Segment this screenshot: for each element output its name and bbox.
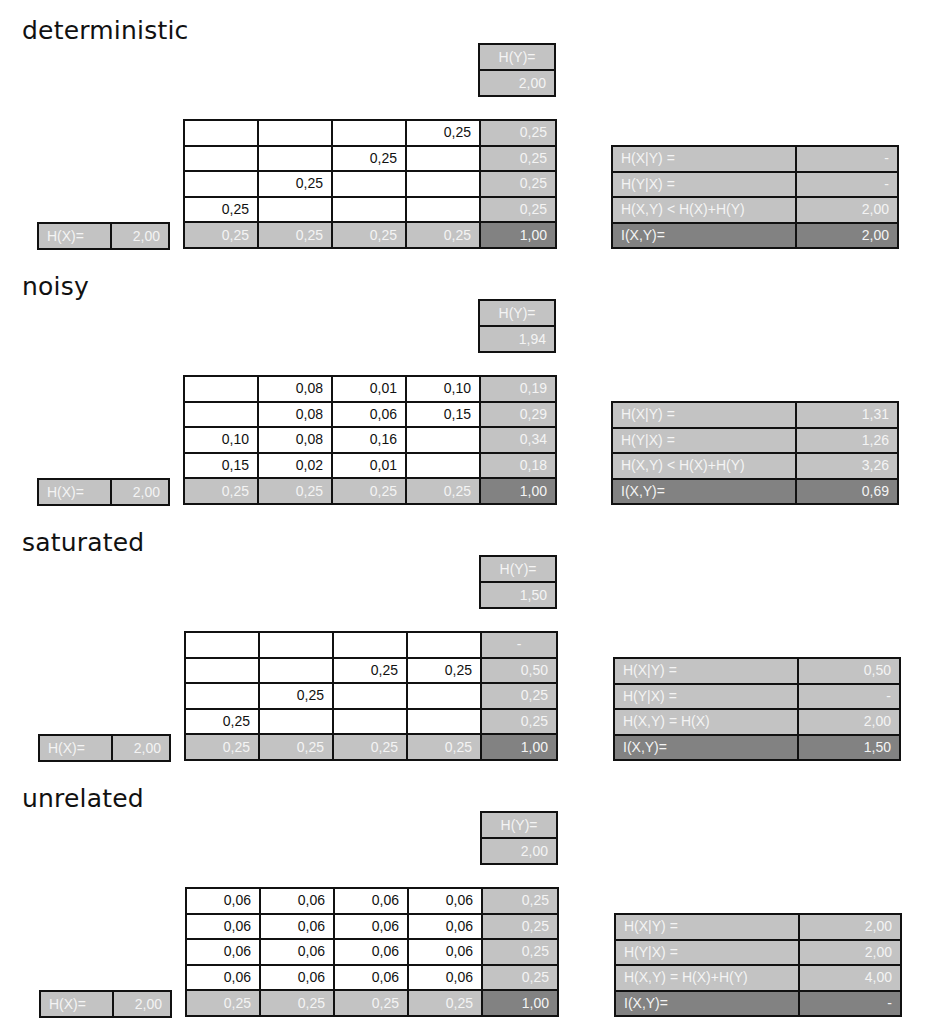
cell: 0,06 (260, 914, 334, 940)
hy-value: 2,00 (481, 838, 557, 864)
row-marginal: 0,25 (480, 120, 556, 146)
column-marginal: 0,25 (184, 478, 258, 504)
conditional-entropy-yx-label: H(Y|X) = (614, 684, 798, 710)
table-row: 0,25 0,25 (185, 709, 557, 735)
table-row: 0,25 0,25 0,50 (185, 658, 557, 684)
table-row: 0,25 0,25 (184, 197, 556, 223)
mutual-information-value: - (799, 991, 901, 1017)
cell: 0,25 (258, 171, 332, 197)
joint-entropy-value: 2,00 (796, 197, 898, 223)
section-saturated: saturated H(Y)= 1,50 - 0,25 0,25 0,50 0,… (0, 520, 929, 776)
row-marginal: 0,25 (481, 683, 557, 709)
row-marginal: 0,25 (481, 709, 557, 735)
cell: 0,06 (408, 939, 482, 965)
table-row: 0,25 0,25 (184, 146, 556, 172)
cell (258, 120, 332, 146)
cell: 0,06 (260, 888, 334, 914)
hy-label: H(Y)= (479, 44, 555, 70)
cell: 0,08 (258, 402, 332, 428)
section-title: unrelated (22, 784, 144, 813)
row-marginal: 0,25 (482, 914, 558, 940)
hy-box: H(Y)= 2,00 (478, 43, 556, 97)
conditional-entropy-xy-value: 1,31 (796, 402, 898, 428)
cell: 0,16 (332, 427, 406, 453)
cell (333, 709, 407, 735)
hy-value: 2,00 (479, 70, 555, 96)
cell: 0,10 (184, 427, 258, 453)
cell (258, 197, 332, 223)
hy-box: H(Y)= 2,00 (480, 811, 558, 865)
cell (406, 427, 480, 453)
cell: 0,02 (258, 453, 332, 479)
joint-entropy-label: H(X,Y) = H(X)+H(Y) (615, 965, 799, 991)
cell: 0,08 (258, 427, 332, 453)
column-marginal: 0,25 (260, 990, 334, 1016)
hx-box: H(X)= 2,00 (39, 990, 172, 1018)
cell: 0,25 (184, 197, 258, 223)
joint-entropy-label: H(X,Y) = H(X) (614, 709, 798, 735)
section-title: noisy (22, 272, 89, 301)
column-marginal: 0,25 (408, 990, 482, 1016)
row-marginal: 0,25 (480, 197, 556, 223)
entropy-summary-table: H(X|Y) =0,50 H(Y|X) =- H(X,Y) = H(X)2,00… (613, 657, 901, 761)
column-marginal: 0,25 (406, 222, 480, 248)
cell (258, 146, 332, 172)
cell: 0,08 (258, 376, 332, 402)
hy-label: H(Y)= (481, 812, 557, 838)
row-marginal: 0,19 (480, 376, 556, 402)
total: 1,00 (480, 222, 556, 248)
cell: 0,15 (184, 453, 258, 479)
joint-entropy-label: H(X,Y) < H(X)+H(Y) (612, 453, 796, 479)
hy-value: 1,94 (479, 326, 555, 352)
row-marginal: 0,25 (482, 965, 558, 991)
table-row: 0,25 0,25 (184, 171, 556, 197)
column-marginal: 0,25 (258, 478, 332, 504)
table-row: 0,15 0,02 0,01 0,18 (184, 453, 556, 479)
cell: 0,06 (260, 939, 334, 965)
row-marginal: 0,25 (480, 146, 556, 172)
entropy-summary-table: H(X|Y) =2,00 H(Y|X) =2,00 H(X,Y) = H(X)+… (614, 913, 902, 1017)
cell: 0,06 (186, 939, 260, 965)
hx-value: 2,00 (113, 991, 171, 1017)
conditional-entropy-xy-value: - (796, 146, 898, 172)
joint-entropy-value: 4,00 (799, 965, 901, 991)
column-marginal: 0,25 (258, 222, 332, 248)
hy-box: H(Y)= 1,50 (479, 555, 557, 609)
cell (259, 709, 333, 735)
cell (184, 402, 258, 428)
row-marginal: 0,29 (480, 402, 556, 428)
hx-value: 2,00 (111, 479, 169, 505)
cell: 0,01 (332, 453, 406, 479)
joint-entropy-label: H(X,Y) < H(X)+H(Y) (612, 197, 796, 223)
cell (407, 632, 481, 658)
cell: 0,15 (406, 402, 480, 428)
mutual-information-value: 1,50 (798, 735, 900, 761)
entropy-summary-table: H(X|Y) =- H(Y|X) =- H(X,Y) < H(X)+H(Y)2,… (611, 145, 899, 249)
joint-probability-table: - 0,25 0,25 0,50 0,25 0,25 0,25 0,25 0,2… (184, 631, 558, 761)
hx-label: H(X)= (38, 223, 111, 249)
column-marginal: 0,25 (406, 478, 480, 504)
cell: 0,06 (186, 914, 260, 940)
cell (406, 197, 480, 223)
cell: 0,06 (408, 965, 482, 991)
hx-label: H(X)= (40, 991, 113, 1017)
section-noisy: noisy H(Y)= 1,94 0,08 0,01 0,10 0,19 0,0… (0, 264, 929, 520)
row-marginal: 0,25 (480, 171, 556, 197)
cell (185, 632, 259, 658)
hy-box: H(Y)= 1,94 (478, 299, 556, 353)
entropy-summary-table: H(X|Y) =1,31 H(Y|X) =1,26 H(X,Y) < H(X)+… (611, 401, 899, 505)
column-marginal: 0,25 (185, 734, 259, 760)
conditional-entropy-xy-value: 2,00 (799, 914, 901, 940)
cell (185, 683, 259, 709)
conditional-entropy-yx-value: 1,26 (796, 428, 898, 454)
conditional-entropy-xy-label: H(X|Y) = (612, 402, 796, 428)
hy-label: H(Y)= (480, 556, 556, 582)
cell: 0,25 (407, 658, 481, 684)
total: 1,00 (480, 478, 556, 504)
conditional-entropy-yx-value: 2,00 (799, 940, 901, 966)
cell (333, 632, 407, 658)
total: 1,00 (482, 990, 558, 1016)
cell: 0,25 (406, 120, 480, 146)
joint-entropy-value: 2,00 (798, 709, 900, 735)
cell: 0,06 (408, 888, 482, 914)
